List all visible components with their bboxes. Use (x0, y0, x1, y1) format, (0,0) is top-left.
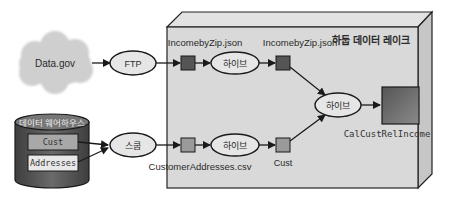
cust-raw-dataset (181, 138, 195, 152)
result-label: CalCustRelIncome (344, 129, 431, 139)
result-dataset (382, 87, 419, 124)
lake-title: 하둡 데이터 레이크 (332, 34, 410, 46)
cust-processed-label: Cust (274, 158, 293, 168)
hive-top-label: 하이브 (223, 59, 247, 69)
income-raw-dataset (181, 56, 195, 70)
income-processed-dataset (276, 56, 290, 70)
datagov-label: Data.gov (35, 58, 75, 69)
hive-bottom-label: 하이브 (223, 141, 247, 151)
warehouse-label: 데이터 웨어하우스 (19, 118, 85, 128)
ftp-label: FTP (125, 59, 142, 69)
data-warehouse: 데이터 웨어하우스 Cust Addresses (15, 114, 89, 188)
income-raw-label: IncomebyZip.json (168, 37, 242, 48)
warehouse-table-cust-label: Cust (43, 137, 63, 147)
warehouse-table-addresses-label: Addresses (30, 158, 76, 168)
hive-top-process: 하이브 (211, 52, 259, 74)
hadoop-data-lake-diagram: 하둡 데이터 레이크 Data.gov FTP IncomebyZip.json… (0, 0, 449, 202)
cust-raw-label: CustomerAddresses.csv (149, 161, 252, 172)
datagov-cloud: Data.gov (19, 31, 93, 94)
hive-center-process: 하이브 (315, 93, 361, 117)
sqoop-process: 스쿱 (110, 133, 156, 157)
hive-bottom-process: 하이브 (211, 134, 259, 156)
hive-center-label: 하이브 (326, 101, 350, 111)
ftp-process: FTP (110, 51, 156, 75)
income-processed-label: IncomebyZip.json (263, 37, 337, 48)
cust-processed-dataset (276, 138, 290, 152)
sqoop-label: 스쿱 (125, 141, 141, 151)
lake-top-face (167, 12, 432, 27)
lake-side-face (418, 12, 432, 188)
